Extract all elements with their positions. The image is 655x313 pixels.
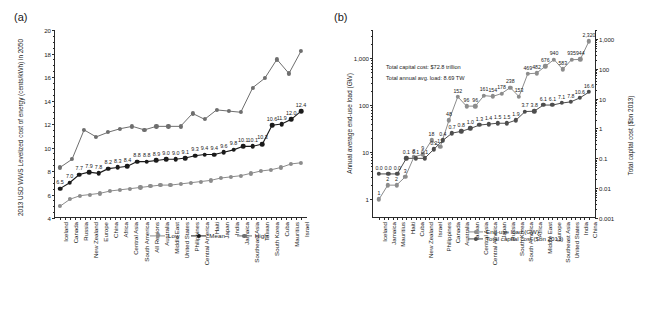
x-axis-tick — [457, 217, 458, 220]
y-axis-tick — [371, 69, 373, 70]
y-axis-tick — [371, 113, 373, 114]
data-point-value-label: 940 — [550, 50, 559, 56]
x-axis-tick — [511, 217, 512, 220]
x-axis-tick — [388, 217, 389, 220]
panel-b-right-y-axis-tick — [595, 90, 597, 91]
panel-b-right-y-axis-tick — [595, 204, 597, 205]
x-axis-tick — [434, 217, 435, 220]
data-point — [77, 172, 82, 177]
data-point-value-label: 152 — [453, 88, 462, 94]
x-axis-tick — [60, 217, 61, 220]
data-point — [154, 158, 159, 163]
panel-b-y-axis-title-right: Total capital cost ($bn 2013) — [627, 66, 634, 206]
x-axis-tick — [261, 217, 262, 220]
y-axis-tick — [53, 36, 55, 37]
data-point-value-label: 7.1 — [558, 94, 565, 100]
y-axis-tick — [371, 130, 373, 131]
y-axis-tick — [53, 118, 55, 119]
data-point-value-label: 1.4 — [485, 115, 492, 121]
data-point-value-label: 935 — [567, 50, 576, 56]
data-point — [67, 180, 72, 185]
x-axis-label: Cuba — [418, 222, 425, 237]
y-axis-tick — [370, 199, 373, 200]
y-axis-tick-label: 1 — [366, 196, 369, 203]
x-axis-tick — [115, 217, 116, 220]
x-axis-label: China — [112, 222, 119, 238]
data-point-value-label: 3.7 — [521, 102, 528, 108]
x-axis-tick — [165, 217, 166, 220]
x-axis-tick — [130, 217, 131, 220]
x-axis-tick — [75, 217, 76, 220]
y-axis-tick — [53, 95, 55, 96]
panel-b-right-y-axis-tick — [595, 197, 597, 198]
x-axis-tick — [571, 217, 572, 220]
x-axis-tick — [502, 217, 503, 220]
x-axis-tick — [489, 217, 490, 220]
panel-b-right-y-axis-tick — [595, 42, 597, 43]
y-axis-tick — [53, 112, 55, 113]
y-axis-tick-label: 10 — [44, 144, 51, 151]
panel-b-annotations: Total capital cost: $72.8 trillion Total… — [386, 62, 465, 83]
y-axis-tick — [53, 212, 55, 213]
data-point-value-label: 0.1 — [421, 149, 428, 155]
x-axis-label: New Zealand — [92, 222, 99, 258]
y-axis-tick — [52, 101, 55, 102]
data-point-value-label: 0.7 — [448, 124, 455, 130]
legend-item: High — [237, 232, 268, 239]
x-axis-tick — [170, 217, 171, 220]
x-axis-tick — [155, 217, 156, 220]
x-axis-tick — [479, 217, 480, 220]
panel-b-right-y-axis-tick — [595, 81, 597, 82]
y-axis-tick — [371, 166, 373, 167]
y-axis-tick — [371, 72, 373, 73]
legend-marker-icon — [237, 232, 252, 239]
y-axis-tick — [371, 138, 373, 139]
x-axis-tick — [493, 217, 494, 220]
x-axis-tick — [175, 217, 176, 220]
y-axis-tick — [53, 177, 55, 178]
panel-b-right-y-axis-tick — [595, 140, 597, 141]
data-point-value-label: 3 — [404, 168, 407, 174]
x-axis-tick — [530, 217, 531, 220]
y-axis-tick — [371, 163, 373, 164]
panel-b-right-y-axis-tick — [595, 84, 597, 85]
x-axis-tick — [251, 217, 252, 220]
data-point-value-label: 9.8 — [230, 140, 238, 146]
y-axis-tick-label: 20 — [44, 27, 51, 34]
panel-b-right-y-axis-tick — [595, 78, 597, 79]
x-axis-label: Mauritius — [399, 222, 406, 247]
x-axis-tick — [140, 217, 141, 220]
panel-b-legend: End-use load (GW)Total capital cost ($bn… — [468, 228, 563, 242]
y-axis-tick — [53, 65, 55, 66]
x-axis-tick — [90, 217, 91, 220]
y-axis-tick — [52, 77, 55, 78]
y-axis-tick — [53, 189, 55, 190]
data-point-value-label: 12.0 — [286, 110, 297, 116]
x-axis-tick — [105, 217, 106, 220]
data-point-value-label: 153 — [515, 87, 524, 93]
x-axis-label: Cuba — [283, 222, 290, 237]
y-axis-tick — [52, 195, 55, 196]
panel-b-right-y-axis-tick — [595, 167, 597, 168]
y-axis-tick — [53, 42, 55, 43]
y-axis-tick — [52, 124, 55, 125]
panel-b-y-axis-title-left: Annual average end-use load (GW) — [346, 49, 353, 199]
x-axis-tick — [276, 217, 277, 220]
data-point-value-label: 10.3 — [257, 134, 268, 140]
data-point-value-label: 3.8 — [531, 102, 538, 108]
x-axis-tick — [562, 217, 563, 220]
data-point-value-label: 9.4 — [201, 145, 209, 151]
data-point — [58, 186, 63, 191]
panel-b-right-y-axis-tick — [595, 160, 597, 161]
panel-b-right-y-axis-tick — [595, 102, 597, 103]
x-axis-label: Europe — [102, 222, 109, 242]
data-point — [289, 117, 294, 122]
y-axis-tick-label: 4 — [48, 215, 51, 222]
y-axis-tick-label: 1,000 — [354, 55, 369, 62]
data-point — [135, 159, 140, 164]
data-point-value-label: 0.8 — [458, 122, 465, 128]
x-axis-label: United States — [573, 222, 580, 259]
x-axis-tick — [85, 217, 86, 220]
x-axis-tick — [498, 217, 499, 220]
panel-b: (b) Annual average end-use load (GW) Tot… — [328, 0, 655, 313]
